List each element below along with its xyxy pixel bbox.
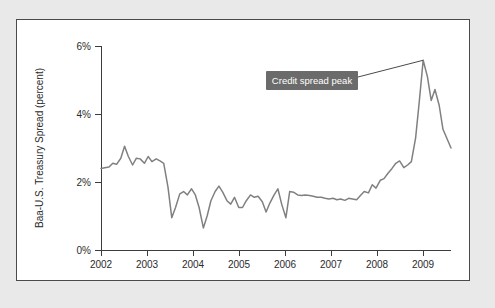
x-tick-label-2008: 2008 bbox=[366, 259, 389, 270]
x-tick-label-2002: 2002 bbox=[90, 259, 113, 270]
y-tick-label-0: 0% bbox=[77, 245, 92, 256]
x-tick-label-2009: 2009 bbox=[412, 259, 435, 270]
x-tick-label-2004: 2004 bbox=[182, 259, 205, 270]
chart-panel: 6% 4% 2% 0% 2002 2003 2004 2005 2006 200… bbox=[16, 19, 470, 281]
y-axis-title: Baa-U.S. Treasury Spread (percent) bbox=[34, 68, 45, 228]
y-tick-label-2: 2% bbox=[77, 177, 92, 188]
x-tick-label-2007: 2007 bbox=[320, 259, 343, 270]
y-tick-label-6: 6% bbox=[77, 41, 92, 52]
x-tick-label-2003: 2003 bbox=[136, 259, 159, 270]
y-tick-label-4: 4% bbox=[77, 109, 92, 120]
annotation-leader-line bbox=[358, 60, 423, 77]
annotation-label: Credit spread peak bbox=[272, 75, 353, 86]
credit-spread-line-chart: 6% 4% 2% 0% 2002 2003 2004 2005 2006 200… bbox=[17, 20, 469, 280]
x-tick-label-2006: 2006 bbox=[274, 259, 297, 270]
x-tick-label-2005: 2005 bbox=[228, 259, 251, 270]
figure-root: 6% 4% 2% 0% 2002 2003 2004 2005 2006 200… bbox=[0, 0, 495, 308]
